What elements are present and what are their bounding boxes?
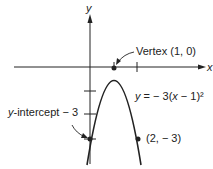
x-axis-label: x bbox=[207, 62, 213, 73]
intercept-arrowhead-icon bbox=[81, 133, 88, 138]
point-2-label: (2, − 3) bbox=[146, 133, 181, 144]
parabola-curve bbox=[87, 81, 141, 166]
vertex-point bbox=[112, 66, 117, 71]
point-2-minus3 bbox=[136, 137, 141, 142]
vertex-label: Vertex (1, 0) bbox=[136, 46, 196, 57]
y-axis-label: y bbox=[86, 3, 92, 14]
equation-part: = − 3( bbox=[141, 90, 173, 102]
equation-end: − 1)² bbox=[178, 90, 204, 102]
y-intercept-label: y-intercept − 3 bbox=[8, 107, 78, 118]
y-intercept-point bbox=[88, 137, 93, 142]
y-axis-arrow-icon bbox=[88, 14, 93, 23]
x-axis-arrow-icon bbox=[198, 65, 206, 70]
intercept-rest: -intercept − 3 bbox=[14, 106, 79, 118]
equation-label: y = − 3(x − 1)² bbox=[135, 91, 204, 102]
vertex-pointer-arrow bbox=[118, 52, 134, 62]
